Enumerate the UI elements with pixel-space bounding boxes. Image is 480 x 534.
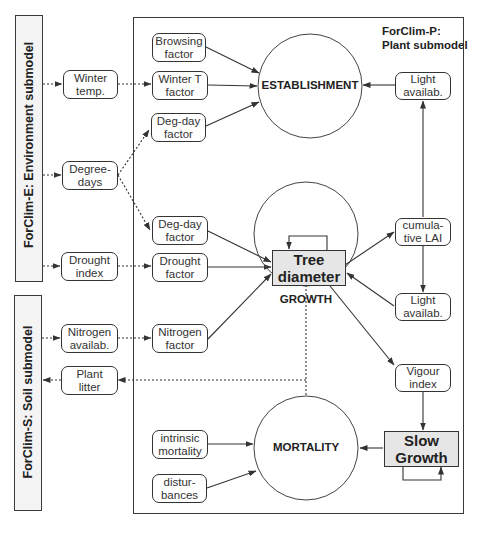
plant-litter-node[interactable]: Plant litter <box>61 366 118 395</box>
nitrogen-factor-node[interactable]: Nitrogen factor <box>152 324 208 353</box>
drought-factor-node[interactable]: Drought factor <box>152 253 208 282</box>
winter-temp-node[interactable]: Winter temp. <box>63 70 118 99</box>
degree-days-node[interactable]: Degree- days <box>62 161 118 190</box>
deg-day-factor-growth-node[interactable]: Deg-day factor <box>152 216 208 245</box>
light-availab-bottom-node[interactable]: Light availab. <box>395 293 451 321</box>
establishment-process-label: ESTABLISHMENT <box>258 79 362 91</box>
light-availab-top-node[interactable]: Light availab. <box>395 72 451 100</box>
browsing-factor-node[interactable]: Browsing factor <box>152 33 206 62</box>
growth-process-label: GROWTH <box>258 293 354 305</box>
slow-growth-state[interactable]: Slow Growth <box>384 431 459 467</box>
cumulative-lai-node[interactable]: cumula- tive LAI <box>395 218 451 246</box>
vigour-index-node[interactable]: Vigour index <box>395 364 451 392</box>
deg-day-factor-establishment-node[interactable]: Deg-day factor <box>151 113 206 142</box>
winter-t-factor-node[interactable]: Winter T factor <box>152 71 208 100</box>
intrinsic-mortality-node[interactable]: intrinsic mortality <box>152 430 208 459</box>
mortality-process-label: MORTALITY <box>258 441 354 453</box>
nitrogen-availab-node[interactable]: Nitrogen availab. <box>61 324 118 353</box>
drought-index-node[interactable]: Drought index <box>61 252 118 281</box>
tree-diameter-state[interactable]: Tree diameter <box>272 250 346 286</box>
disturbances-node[interactable]: distur- bances <box>152 474 207 503</box>
